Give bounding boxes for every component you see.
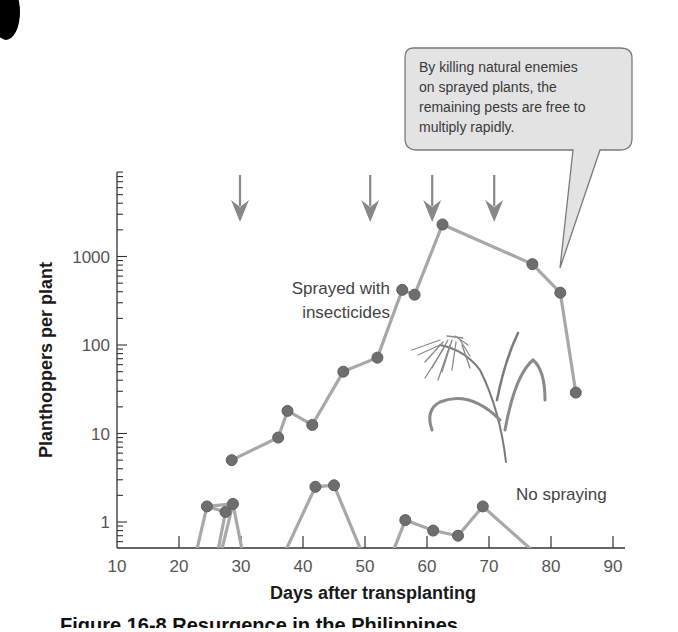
chart: By killing natural enemieson sprayed pla… bbox=[0, 0, 678, 632]
data-point bbox=[555, 287, 566, 298]
data-point bbox=[477, 501, 488, 512]
x-tick-label: 10 bbox=[108, 557, 127, 576]
x-tick-label: 40 bbox=[294, 557, 313, 576]
data-point bbox=[201, 501, 212, 512]
data-point bbox=[372, 352, 383, 363]
x-axis-title: Days after transplanting bbox=[270, 583, 476, 603]
rice-plant-illustration bbox=[412, 333, 545, 462]
data-point bbox=[409, 289, 420, 300]
callout-line: multiply rapidly. bbox=[419, 119, 514, 135]
data-point bbox=[307, 419, 318, 430]
data-point bbox=[338, 366, 349, 377]
spray-arrow-icon bbox=[485, 175, 503, 222]
data-point bbox=[310, 481, 321, 492]
series-label-sprayed: Sprayed withinsecticides bbox=[292, 279, 390, 322]
series-label-no-spraying: No spraying bbox=[516, 485, 607, 504]
data-point bbox=[329, 480, 340, 491]
data-point bbox=[453, 530, 464, 541]
callout-line: on sprayed plants, the bbox=[419, 79, 557, 95]
data-point bbox=[273, 432, 284, 443]
data-point bbox=[428, 525, 439, 536]
x-tick-label: 50 bbox=[356, 557, 375, 576]
data-point bbox=[397, 284, 408, 295]
data-point bbox=[570, 387, 581, 398]
callout-line: By killing natural enemies bbox=[419, 59, 578, 75]
spray-arrow-icon bbox=[423, 175, 441, 222]
x-tick-label: 70 bbox=[480, 557, 499, 576]
x-tick-label: 80 bbox=[542, 557, 561, 576]
y-axis-title: Planthoppers per plant bbox=[36, 262, 56, 458]
x-tick-label: 30 bbox=[232, 557, 251, 576]
corner-blot bbox=[0, 0, 20, 40]
data-point bbox=[437, 219, 448, 230]
y-tick-label: 100 bbox=[82, 336, 110, 355]
callout-line: remaining pests are free to bbox=[419, 99, 586, 115]
data-point bbox=[527, 259, 538, 270]
series-layer bbox=[195, 219, 582, 560]
spray-arrow-icon bbox=[231, 175, 249, 222]
data-point bbox=[226, 455, 237, 466]
x-tick-label: 60 bbox=[418, 557, 437, 576]
data-point bbox=[400, 515, 411, 526]
y-tick-label: 10 bbox=[91, 425, 110, 444]
x-tick-label: 20 bbox=[170, 557, 189, 576]
spray-arrow-icon bbox=[361, 175, 379, 222]
data-point bbox=[227, 498, 238, 509]
spray-arrows bbox=[231, 175, 503, 222]
y-tick-label: 1 bbox=[101, 513, 110, 532]
data-point bbox=[282, 405, 293, 416]
x-tick-label: 90 bbox=[604, 557, 623, 576]
y-tick-label: 1000 bbox=[72, 248, 110, 267]
